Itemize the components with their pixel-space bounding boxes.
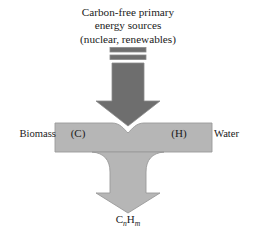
energy-input-arrow [96, 63, 160, 126]
formula-subscript-m: m [135, 219, 140, 228]
label-hydrogen-source: (H) [161, 127, 197, 140]
title-line-1: Carbon-free primary [0, 6, 256, 19]
title-line-3: (nuclear, renewables) [0, 33, 256, 46]
formula-element-c: C [116, 213, 123, 225]
energy-flow-diagram: Carbon-free primary energy sources (nucl… [0, 0, 256, 237]
diagram-title: Carbon-free primary energy sources (nucl… [0, 6, 256, 46]
formula-element-h: H [127, 213, 135, 225]
energy-input-bar-second [110, 55, 146, 60]
energy-input-bar-top [110, 48, 146, 53]
label-product-formula: CnHm [0, 213, 256, 229]
title-line-2: energy sources [0, 19, 256, 32]
label-water: Water [214, 128, 256, 141]
label-biomass: Biomass [6, 128, 56, 141]
label-carbon-source: (C) [60, 127, 96, 140]
product-output-arrow [92, 152, 164, 213]
